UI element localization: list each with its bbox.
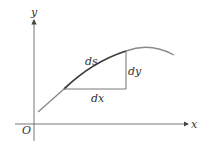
curve-upper-segment	[126, 47, 174, 55]
dx-label: dx	[91, 92, 105, 105]
arc-length-diagram: y x O ds dy dx	[0, 0, 209, 150]
ds-label: ds	[85, 55, 98, 68]
y-axis-label: y	[30, 6, 38, 19]
origin-label: O	[22, 124, 31, 137]
curve-lower-segment	[38, 89, 64, 112]
dy-label: dy	[128, 65, 142, 78]
x-axis-label: x	[191, 118, 198, 131]
